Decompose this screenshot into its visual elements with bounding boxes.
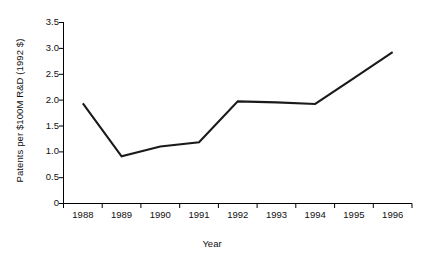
x-tick-label: 1995 — [333, 209, 375, 220]
x-tick-label: 1996 — [372, 209, 414, 220]
x-tick-label: 1989 — [101, 209, 143, 220]
x-tick-label: 1988 — [62, 209, 104, 220]
x-axis-title: Year — [0, 233, 424, 251]
x-tick-label: 1991 — [178, 209, 220, 220]
x-axis-title-text: Year — [202, 238, 221, 249]
x-tick-label: 1990 — [139, 209, 181, 220]
x-axis-tick-labels: 1988 1989 1990 1991 1992 1993 1994 1995 … — [0, 0, 424, 262]
x-tick-label: 1993 — [256, 209, 298, 220]
x-tick-label: 1994 — [294, 209, 336, 220]
x-tick-label: 1992 — [217, 209, 259, 220]
chart-figure: Patents per $100M R&D (1992 $) 3.5 3.0 2… — [0, 0, 424, 262]
